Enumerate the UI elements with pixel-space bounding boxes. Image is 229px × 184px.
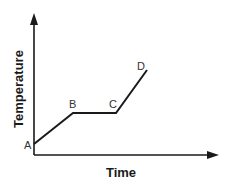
- point-label-b: B: [69, 98, 76, 110]
- y-axis-title: Temperature: [11, 50, 26, 128]
- x-axis-arrow-icon: [207, 151, 219, 159]
- temperature-line: [34, 70, 147, 144]
- x-axis-title: Time: [106, 165, 136, 180]
- point-label-c: C: [109, 98, 117, 110]
- heating-curve-chart: A B C D Time Temperature: [0, 0, 229, 184]
- point-label-d: D: [137, 60, 145, 72]
- point-label-a: A: [24, 139, 32, 151]
- y-axis-arrow-icon: [30, 13, 38, 25]
